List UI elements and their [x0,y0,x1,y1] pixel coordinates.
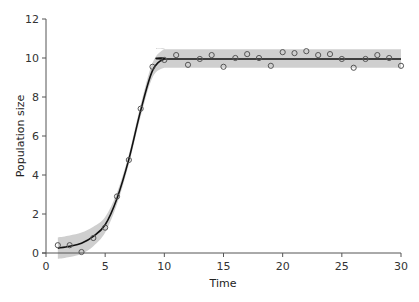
x-tick-label: 10 [157,260,171,273]
y-tick-label: 8 [32,91,39,104]
x-tick-label: 5 [102,260,109,273]
x-tick-label: 20 [276,260,290,273]
y-axis-title: Population size [14,94,27,177]
y-tick-label: 10 [25,52,39,65]
confidence-band-area [58,48,401,259]
y-tick-label: 4 [32,169,39,182]
x-tick-label: 30 [394,260,408,273]
logistic-growth-chart: 024681012051015202530 Time Population si… [0,0,419,302]
x-tick-label: 15 [217,260,231,273]
x-axis-title: Time [209,277,237,290]
y-tick-label: 0 [32,247,39,260]
y-tick-label: 2 [32,208,39,221]
x-tick-label: 25 [335,260,349,273]
y-tick-label: 6 [32,130,39,143]
confidence-band [58,48,401,259]
y-tick-label: 12 [25,13,39,26]
x-tick-label: 0 [43,260,50,273]
